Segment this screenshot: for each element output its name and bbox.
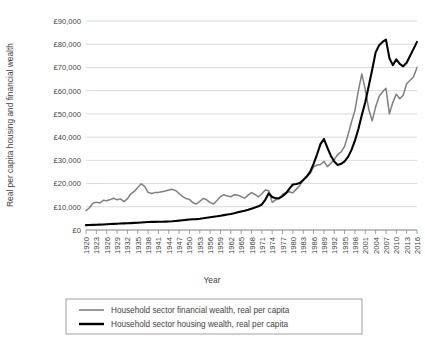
y-tick-label: £40,000: [54, 133, 81, 142]
x-tick-label: 1962: [227, 237, 236, 254]
x-tick-label: 2016: [413, 237, 422, 254]
y-tick-label: £30,000: [54, 156, 81, 165]
x-tick-label: 2010: [392, 237, 401, 254]
x-tick-label: 1992: [330, 237, 339, 254]
x-tick-label: 1956: [206, 237, 215, 254]
y-axis-title: Real per capita housing and financial we…: [5, 43, 15, 207]
x-tick-label: 1986: [310, 237, 319, 254]
x-tick-label: 1953: [196, 237, 205, 254]
x-tick-label: 1923: [92, 237, 101, 254]
x-tick-label: 2004: [372, 237, 381, 254]
chart-container: £0£10,000£20,000£30,000£40,000£50,000£60…: [0, 0, 425, 338]
x-tick-label: 1959: [216, 237, 225, 254]
x-tick-label: 1950: [185, 237, 194, 254]
x-tick-label: 1929: [113, 237, 122, 254]
y-tick-label: £90,000: [54, 17, 81, 26]
legend-label-1: Household sector housing wealth, real pe…: [111, 320, 288, 329]
y-tick-label: £70,000: [54, 63, 81, 72]
legend-label-0: Household sector financial wealth, real …: [111, 306, 290, 315]
x-tick-label: 1965: [237, 237, 246, 254]
line-chart: £0£10,000£20,000£30,000£40,000£50,000£60…: [0, 0, 425, 338]
y-tick-label: £80,000: [54, 40, 81, 49]
x-tick-label: 2001: [361, 237, 370, 254]
x-tick-label: 1947: [175, 237, 184, 254]
y-tick-label: £20,000: [54, 179, 81, 188]
x-tick-label: 1980: [289, 237, 298, 254]
x-tick-label: 1989: [320, 237, 329, 254]
y-tick-label: £50,000: [54, 110, 81, 119]
x-tick-label: 1998: [351, 237, 360, 254]
x-tick-label: 1944: [165, 237, 174, 254]
x-tick-label: 2007: [382, 237, 391, 254]
x-tick-label: 2013: [403, 237, 412, 254]
x-tick-label: 1938: [144, 237, 153, 254]
y-tick-label: £60,000: [54, 87, 81, 96]
x-tick-label: 1977: [279, 237, 288, 254]
x-tick-label: 1926: [103, 237, 112, 254]
x-tick-label: 1920: [82, 237, 91, 254]
x-tick-label: 1971: [258, 237, 267, 254]
x-tick-label: 1983: [299, 237, 308, 254]
y-tick-label: £10,000: [54, 203, 81, 212]
x-tick-label: 1935: [134, 237, 143, 254]
x-tick-label: 1968: [248, 237, 257, 254]
x-tick-label: 1995: [341, 237, 350, 254]
x-tick-label: 1974: [268, 237, 277, 254]
x-axis-title: Year: [204, 275, 221, 285]
x-tick-label: 1932: [123, 237, 132, 254]
x-tick-label: 1941: [154, 237, 163, 254]
y-tick-label: £0: [73, 226, 81, 235]
